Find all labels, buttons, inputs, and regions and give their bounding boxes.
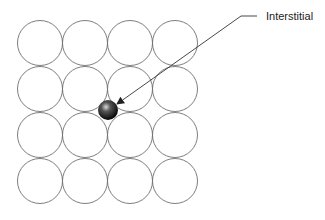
host-atom xyxy=(153,67,198,112)
host-atom xyxy=(63,113,108,158)
host-atom xyxy=(108,21,153,66)
interstitial-label: Interstitial xyxy=(266,10,313,22)
lattice-diagram: Interstitial xyxy=(0,0,325,220)
host-atom xyxy=(108,113,153,158)
host-atom xyxy=(18,113,63,158)
host-atom xyxy=(153,21,198,66)
host-atom xyxy=(18,159,63,204)
callout-arrow xyxy=(117,16,257,104)
host-atom xyxy=(153,113,198,158)
host-atom xyxy=(108,159,153,204)
host-atom xyxy=(63,21,108,66)
lattice-svg xyxy=(0,0,325,220)
host-atom xyxy=(153,159,198,204)
host-atom xyxy=(18,21,63,66)
host-atom xyxy=(18,67,63,112)
interstitial-atom xyxy=(98,100,118,120)
host-atom xyxy=(63,159,108,204)
